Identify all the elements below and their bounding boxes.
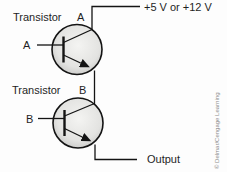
- circuit-diagram-canvas: Transistor A +5 V or +12 V A Transistor …: [0, 0, 227, 172]
- transistor-a-body: [52, 25, 102, 75]
- input-b-label: B: [26, 113, 33, 125]
- wire-supply: [92, 7, 140, 31]
- transistor-a-id-label: A: [77, 11, 85, 23]
- supply-voltage-label: +5 V or +12 V: [144, 1, 213, 13]
- transistor-b-name-label: Transistor: [12, 84, 61, 96]
- copyright-credit: © Delmar/Cengage Learning: [214, 93, 220, 169]
- transistor-b-symbol: [38, 98, 103, 148]
- input-a-label: A: [23, 39, 31, 51]
- output-label: Output: [147, 153, 180, 165]
- transistor-a-name-label: Transistor: [13, 11, 62, 23]
- wire-output: [95, 145, 137, 160]
- circuit-diagram: Transistor A +5 V or +12 V A Transistor …: [0, 0, 227, 172]
- transistor-b-id-label: B: [79, 84, 86, 96]
- transistor-b-body: [53, 98, 103, 148]
- transistor-a-symbol: [37, 25, 102, 75]
